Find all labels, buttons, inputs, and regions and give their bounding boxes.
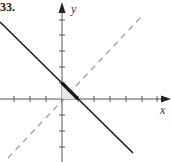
graph-figure: 33. <box>0 0 171 162</box>
x-axis <box>0 96 171 103</box>
x-axis-arrow-icon <box>161 96 171 103</box>
x-axis-label: x <box>160 104 165 116</box>
y-axis-arrow-icon <box>59 2 66 13</box>
coordinate-plane <box>0 0 171 162</box>
dashed-line <box>8 17 141 158</box>
y-axis-label: y <box>71 3 76 15</box>
